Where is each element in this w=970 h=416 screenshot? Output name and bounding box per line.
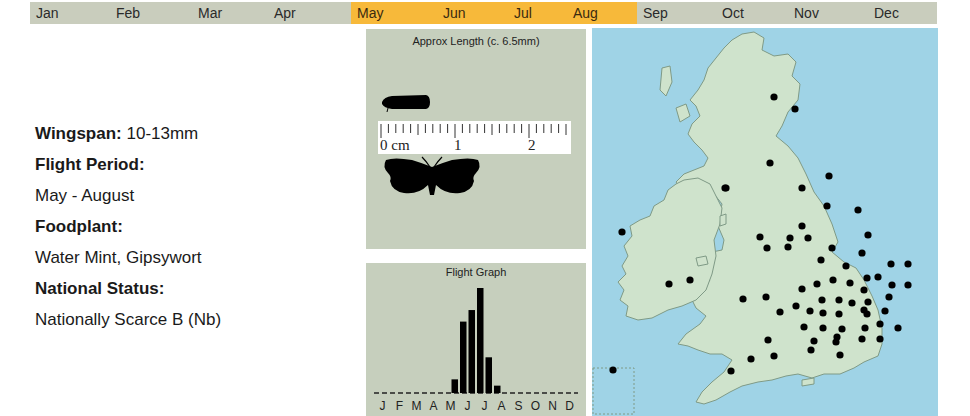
record-dot <box>804 234 811 241</box>
ruler-label-2: 2 <box>528 138 536 153</box>
record-dot <box>860 286 867 293</box>
record-dot <box>835 310 842 317</box>
record-dot <box>747 355 754 362</box>
record-dot <box>904 281 911 288</box>
record-dot <box>792 302 799 309</box>
month-aug: Aug <box>567 2 637 24</box>
flight-graph-month-label: N <box>548 399 557 413</box>
flight-bar <box>469 310 476 393</box>
record-dot <box>846 279 853 286</box>
flight-bar <box>477 288 484 393</box>
month-may: May <box>351 2 437 24</box>
record-dot <box>854 206 861 213</box>
month-nov: Nov <box>788 2 868 24</box>
flight-graph: JFMAMJJASOND <box>366 263 586 416</box>
skye <box>676 104 690 122</box>
isle-of-wight <box>802 378 814 386</box>
ruler-label-0: 0 cm <box>380 138 410 153</box>
record-dot <box>864 298 871 305</box>
moth-spread-silhouette-icon <box>382 155 484 199</box>
wingspan-label: Wingspan: <box>35 124 122 143</box>
record-dot <box>832 338 839 345</box>
record-dot <box>887 260 894 267</box>
record-dot <box>786 234 793 241</box>
isle-of-man <box>720 214 726 226</box>
record-dot <box>863 310 870 317</box>
month-apr: Apr <box>268 2 351 24</box>
ruler-label-1: 1 <box>454 138 462 153</box>
record-dot <box>791 105 798 112</box>
record-dot <box>904 260 911 267</box>
species-info: Wingspan: 10-13mm Flight Period: May - A… <box>35 118 355 335</box>
uk-ireland-map <box>592 28 938 416</box>
record-dot <box>810 337 817 344</box>
flight-graph-month-label: D <box>565 399 574 413</box>
month-jul: Jul <box>508 2 567 24</box>
record-dot <box>618 228 625 235</box>
record-dot <box>686 276 693 283</box>
record-dot <box>885 293 892 300</box>
flight-period-value: May - August <box>35 180 355 211</box>
record-dot <box>836 351 843 358</box>
record-dot <box>894 324 901 331</box>
flight-graph-month-label: F <box>396 399 403 413</box>
record-dot <box>756 233 763 240</box>
record-dot <box>888 281 895 288</box>
month-oct: Oct <box>716 2 788 24</box>
foodplant-label: Foodplant: <box>35 211 355 242</box>
length-panel: Approx Length (c. 6.5mm) 0 cm 1 2 <box>366 29 586 249</box>
month-sep: Sep <box>637 2 716 24</box>
record-dot <box>864 231 871 238</box>
wingspan-row: Wingspan: 10-13mm <box>35 118 355 149</box>
record-dot <box>861 324 868 331</box>
month-mar: Mar <box>192 2 268 24</box>
flight-graph-month-label: A <box>497 399 505 413</box>
record-dot <box>798 285 805 292</box>
month-bar: JanFebMarAprMayJunJulAugSepOctNovDec <box>30 2 937 24</box>
moth-side-silhouette-icon <box>378 93 432 113</box>
flight-bar <box>486 357 493 393</box>
record-dot <box>858 249 865 256</box>
record-dot <box>798 222 805 229</box>
record-dot <box>727 367 734 374</box>
flight-graph-month-label: O <box>531 399 540 413</box>
record-dot <box>842 262 849 269</box>
record-dot <box>762 293 769 300</box>
length-panel-title: Approx Length (c. 6.5mm) <box>366 35 586 47</box>
record-dot <box>874 273 881 280</box>
record-dot <box>784 243 791 250</box>
record-dot <box>818 296 825 303</box>
flight-bar <box>452 379 459 393</box>
record-dot <box>609 366 616 373</box>
month-jan: Jan <box>30 2 110 24</box>
record-dot <box>800 323 807 330</box>
record-dot <box>776 308 783 315</box>
flight-graph-month-label: S <box>514 399 522 413</box>
record-dot <box>763 244 770 251</box>
record-dot <box>819 309 826 316</box>
record-dot <box>766 159 773 166</box>
record-dot <box>876 320 883 327</box>
record-dot <box>823 202 830 209</box>
flight-graph-month-label: M <box>446 399 456 413</box>
record-dot <box>848 299 855 306</box>
record-dot <box>829 276 836 283</box>
record-dot <box>825 172 832 179</box>
anglesey <box>696 256 708 266</box>
month-jun: Jun <box>437 2 508 24</box>
record-dot <box>838 325 845 332</box>
flight-period-label: Flight Period: <box>35 149 355 180</box>
national-status-label: National Status: <box>35 273 355 304</box>
record-dot <box>770 352 777 359</box>
record-dot <box>863 274 870 281</box>
record-dot <box>817 256 824 263</box>
record-dot <box>665 280 672 287</box>
record-dot <box>813 280 820 287</box>
record-dot <box>881 307 888 314</box>
record-dot <box>764 336 771 343</box>
flight-graph-month-label: M <box>412 399 422 413</box>
month-dec: Dec <box>868 2 937 24</box>
flight-graph-panel: Flight Graph JFMAMJJASOND <box>366 263 586 416</box>
distribution-map <box>592 28 938 416</box>
flight-bar <box>460 322 467 393</box>
